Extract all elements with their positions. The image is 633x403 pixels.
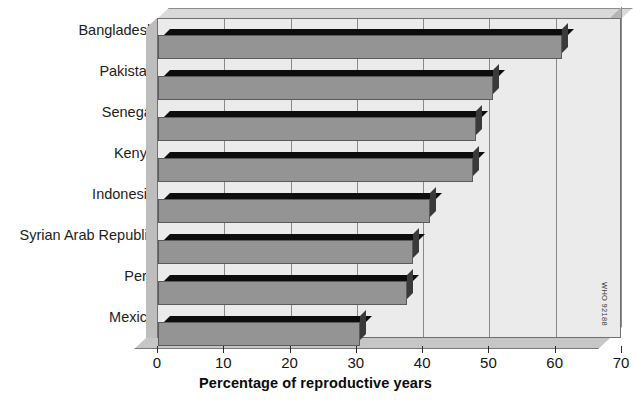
bar-side-face	[430, 187, 436, 217]
bar-bangladesh	[158, 29, 562, 53]
bar-front-face	[158, 158, 473, 182]
category-label-peru: Peru	[3, 268, 155, 284]
plot-area	[157, 18, 621, 338]
bar-mexico	[158, 316, 360, 340]
bar-front-face	[158, 281, 407, 305]
plot-left-face	[146, 18, 157, 348]
gridline-60	[556, 19, 557, 337]
x-tick-label-60: 60	[546, 354, 563, 371]
x-tick-label-10: 10	[215, 354, 232, 371]
bar-side-face	[360, 310, 366, 340]
x-tick-10	[223, 346, 224, 353]
category-label-bangladesh: Bangladesh	[3, 22, 155, 38]
x-tick-label-50: 50	[480, 354, 497, 371]
bar-side-face	[562, 23, 568, 53]
bar-front-face	[158, 322, 360, 346]
bar-side-face	[407, 269, 413, 299]
bar-kenya	[158, 152, 473, 176]
bar-indonesia	[158, 193, 430, 217]
x-tick-70	[621, 346, 622, 353]
bar-front-face	[158, 76, 493, 100]
x-tick-60	[555, 346, 556, 353]
bar-pakistan	[158, 70, 493, 94]
category-label-pakistan: Pakistan	[3, 63, 155, 79]
bar-front-face	[158, 199, 430, 223]
category-label-indonesia: Indonesia	[3, 186, 155, 202]
bar-front-face	[158, 35, 562, 59]
x-tick-label-40: 40	[414, 354, 431, 371]
bar-side-face	[473, 146, 479, 176]
x-tick-20	[290, 346, 291, 353]
bar-senegal	[158, 111, 476, 135]
x-tick-40	[422, 346, 423, 353]
x-tick-30	[356, 346, 357, 353]
x-tick-0	[157, 346, 158, 353]
x-tick-label-0: 0	[153, 354, 161, 371]
bar-side-face	[476, 105, 482, 135]
bar-syrian-arab-republic	[158, 234, 413, 258]
bar-peru	[158, 275, 407, 299]
x-tick-label-30: 30	[348, 354, 365, 371]
x-tick-50	[488, 346, 489, 353]
category-label-kenya: Kenya	[3, 145, 155, 161]
category-label-senegal: Senegal	[3, 104, 155, 120]
bar-side-face	[413, 228, 419, 258]
x-tick-label-70: 70	[613, 354, 630, 371]
gridline-50	[489, 19, 490, 337]
category-axis-labels: Bangladesh Pakistan Senegal Kenya Indone…	[0, 0, 155, 340]
category-label-mexico: Mexico	[3, 309, 155, 325]
category-label-syrian-arab-republic: Syrian Arab Republic	[3, 227, 155, 243]
x-axis-title: Percentage of reproductive years	[0, 375, 631, 391]
plot-box-3d	[146, 8, 622, 346]
bar-front-face	[158, 117, 476, 141]
bar-side-face	[493, 64, 499, 94]
bar-front-face	[158, 240, 413, 264]
x-tick-label-20: 20	[281, 354, 298, 371]
source-credit: WHO 92188	[600, 282, 609, 326]
x-axis: 010203040506070	[146, 346, 622, 372]
